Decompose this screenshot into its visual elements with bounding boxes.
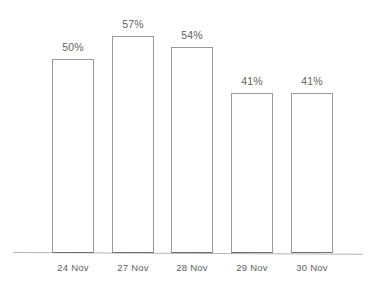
- bar-28-nov[interactable]: [171, 47, 213, 253]
- bar-chart: 50% 24 Nov 57% 27 Nov 54% 28 Nov 41% 29 …: [0, 0, 377, 293]
- x-axis-label-28-nov: 28 Nov: [162, 262, 222, 273]
- bar-value-label: 54%: [171, 29, 213, 41]
- bar-27-nov[interactable]: [112, 36, 154, 253]
- bar-value-label: 50%: [52, 41, 94, 53]
- bar-29-nov[interactable]: [231, 93, 273, 253]
- bar-24-nov[interactable]: [52, 59, 94, 253]
- x-axis-label-30-nov: 30 Nov: [282, 262, 342, 273]
- bar-30-nov[interactable]: [291, 93, 333, 253]
- bar-value-label: 57%: [112, 18, 154, 30]
- x-axis-label-24-nov: 24 Nov: [43, 262, 103, 273]
- bar-value-label: 41%: [231, 75, 273, 87]
- x-axis-label-29-nov: 29 Nov: [222, 262, 282, 273]
- plot-area: 50% 24 Nov 57% 27 Nov 54% 28 Nov 41% 29 …: [0, 0, 377, 293]
- bar-value-label: 41%: [291, 75, 333, 87]
- x-axis-label-27-nov: 27 Nov: [103, 262, 163, 273]
